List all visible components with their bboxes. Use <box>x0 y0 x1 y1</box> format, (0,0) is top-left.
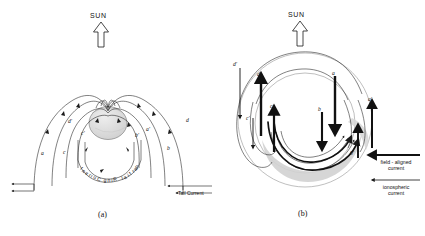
label-b-a: a <box>332 70 335 76</box>
label-a-c: c <box>63 149 65 155</box>
label-b-b-prime: b' <box>350 150 354 156</box>
legend-ion-line2: current <box>388 190 404 196</box>
label-a-c-prime: c' <box>81 130 85 136</box>
label-b-c: c <box>270 103 272 109</box>
label-b-d-prime: d' <box>233 61 237 67</box>
sun-arrow-a <box>94 22 109 47</box>
label-a-d: d <box>186 117 189 123</box>
label-b-b: b <box>318 106 321 112</box>
tail-current-label: Tail Current <box>178 190 204 196</box>
label-a-b: b <box>167 145 170 151</box>
magnetosphere-current-figure <box>0 0 425 236</box>
label-a-b-prime: b' <box>135 132 139 138</box>
panel-a-caption: (a) <box>98 210 107 219</box>
current-connector-lines-b <box>237 52 365 168</box>
label-a-a-prime: a' <box>146 126 150 132</box>
field-lines-a <box>34 95 183 190</box>
panel-b-caption: (b) <box>298 209 307 218</box>
ring-current-label-char: n <box>107 177 110 183</box>
label-b-c-prime: c' <box>246 115 250 121</box>
ring-current-label-char: i <box>111 177 113 183</box>
label-b-d: d <box>257 71 260 77</box>
legend-ionospheric-current: ionospheric current <box>368 184 424 196</box>
label-a-a: a <box>41 150 44 156</box>
sun-label-a: SUN <box>90 12 107 19</box>
sun-label-b: SUN <box>288 11 305 18</box>
label-a-d-prime: d' <box>68 118 72 124</box>
panel-a <box>12 22 212 193</box>
earth-a <box>89 107 127 140</box>
legend-field-aligned-current: field - aligned current <box>368 159 424 171</box>
label-b-a-prime: a' <box>368 96 372 102</box>
legend-fac-line1: field - aligned <box>381 159 412 165</box>
legend-fac-line2: current <box>388 165 404 171</box>
ring-current-label-char: g <box>103 177 106 183</box>
legend-ion-line1: ionospheric <box>383 184 410 190</box>
sun-arrow-b <box>293 21 308 46</box>
